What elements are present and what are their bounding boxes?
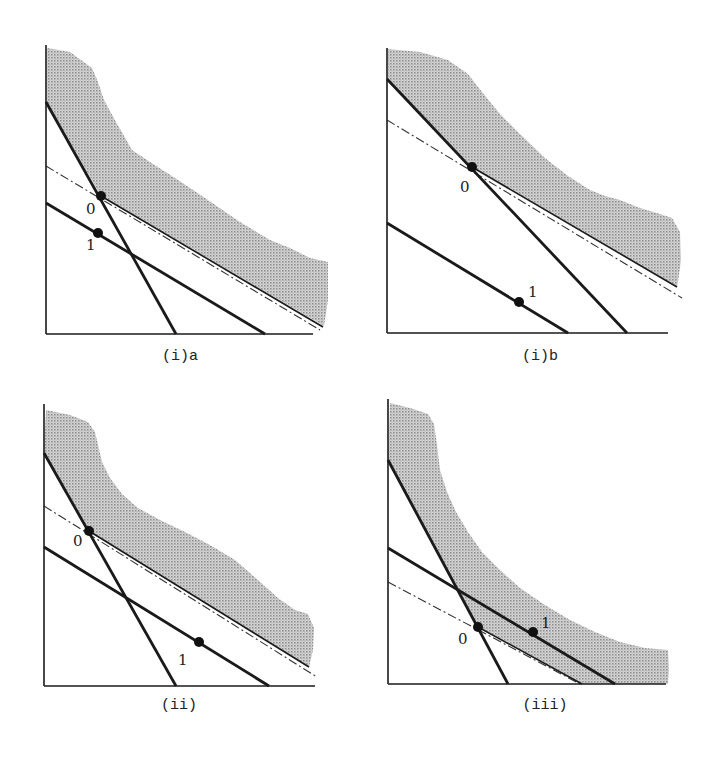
panel-ii: 0 1 (ii) [44, 404, 317, 714]
panel-caption: (i)b [522, 348, 558, 365]
panel-iii: 0 1 (iii) [388, 399, 669, 714]
panel-ia: 0 1 (i)a [46, 45, 328, 365]
shaded-region [47, 48, 328, 326]
shaded-region [388, 403, 669, 684]
panel-caption: (ii) [161, 697, 197, 714]
panel-caption: (i)a [162, 348, 198, 365]
point-0-label: 0 [73, 532, 83, 550]
point-1 [514, 297, 524, 307]
diagram-figure: 0 1 (i)a 0 1 (i)b 0 1 (ii) [0, 0, 714, 761]
shaded-region [44, 410, 314, 667]
point-0 [467, 162, 477, 172]
point-0-label: 0 [460, 178, 470, 196]
point-1-label: 1 [541, 614, 551, 632]
point-0 [96, 191, 106, 201]
point-0 [84, 526, 94, 536]
budget-line-1 [387, 223, 568, 333]
budget-line-1 [388, 548, 615, 684]
point-1-label: 1 [86, 236, 96, 254]
point-1-label: 1 [178, 651, 188, 669]
panel-caption: (iii) [522, 697, 567, 714]
point-1-label: 1 [528, 283, 538, 301]
point-0-label: 0 [86, 200, 96, 218]
point-1 [194, 637, 204, 647]
point-0-label: 0 [458, 630, 468, 648]
point-1 [528, 627, 538, 637]
panel-ib: 0 1 (i)b [387, 48, 682, 365]
point-0 [473, 622, 483, 632]
